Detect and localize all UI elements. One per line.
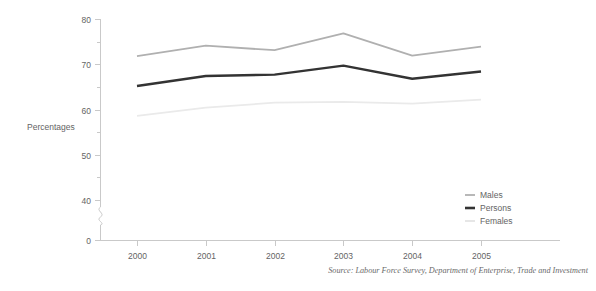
y-axis-break-icon <box>99 207 102 225</box>
data-series-group <box>137 33 481 115</box>
y-tick-label-zero: 0 <box>86 236 91 246</box>
y-tick-label: 60 <box>82 106 92 116</box>
y-axis: 40506070800 <box>82 15 103 246</box>
y-tick-label: 80 <box>82 15 92 25</box>
x-tick-label: 2003 <box>334 251 353 261</box>
y-tick-label: 40 <box>82 196 92 206</box>
line-chart-figure: 40506070800 200020012002200320042005 Per… <box>0 0 596 291</box>
x-tick-label-group: 200020012002200320042005 <box>128 251 491 261</box>
x-tick-label: 2004 <box>403 251 422 261</box>
series-line-persons <box>137 66 481 86</box>
legend-label-females: Females <box>480 216 513 226</box>
x-tick-label: 2000 <box>128 251 147 261</box>
x-tick-group <box>138 241 482 247</box>
legend-label-persons: Persons <box>480 203 511 213</box>
y-axis-title: Percentages <box>27 122 75 132</box>
y-tick-label: 50 <box>82 151 92 161</box>
y-tick-label-group: 40506070800 <box>82 15 92 246</box>
chart-legend: MalesPersonsFemales <box>465 190 513 226</box>
chart-canvas: 40506070800 200020012002200320042005 Per… <box>0 0 596 291</box>
series-line-females <box>137 100 481 116</box>
x-tick-label: 2002 <box>266 251 285 261</box>
series-line-males <box>137 33 481 56</box>
y-tick-label: 70 <box>82 60 92 70</box>
legend-label-males: Males <box>480 190 503 200</box>
x-axis: 200020012002200320042005 <box>101 241 561 262</box>
source-note: Source: Labour Force Survey, Department … <box>328 266 588 275</box>
x-tick-label: 2001 <box>197 251 216 261</box>
x-tick-label: 2005 <box>472 251 491 261</box>
